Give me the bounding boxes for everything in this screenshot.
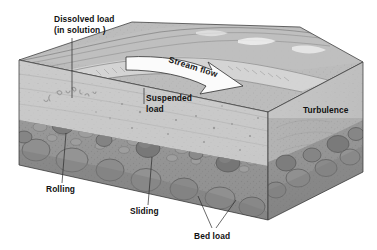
label-suspended-load-line2: load [146, 104, 164, 114]
label-dissolved-load-line1: Dissolved load [54, 14, 115, 24]
label-turbulence: Turbulence [303, 105, 349, 115]
label-sliding: Sliding [130, 206, 159, 216]
diagram-canvas: Dissolved load (in solution ) Stream flo… [0, 0, 377, 250]
label-suspended-load-line1: Suspended [146, 93, 192, 103]
label-dissolved-load-line2: (in solution ) [54, 25, 106, 35]
stream-transport-diagram: Dissolved load (in solution ) Stream flo… [0, 0, 377, 250]
label-rolling: Rolling [46, 184, 75, 194]
label-bed-load: Bed load [194, 231, 230, 241]
